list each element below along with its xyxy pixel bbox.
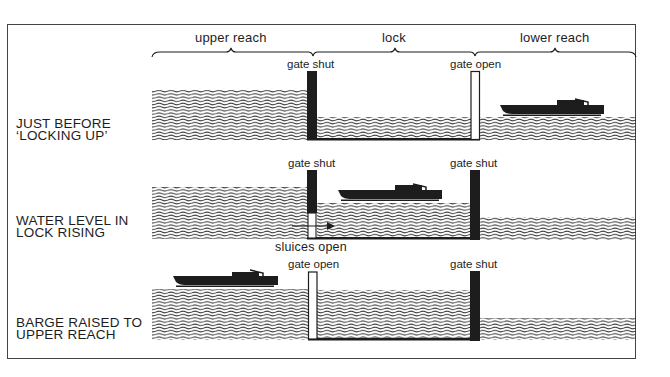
panel-2-graphic xyxy=(152,170,636,240)
panel-3-right-gate-label: gate shut xyxy=(450,258,497,270)
lock-floor xyxy=(308,338,480,341)
lock-water xyxy=(317,203,471,239)
left-gate-open xyxy=(309,272,318,339)
lower-reach-water xyxy=(480,217,636,240)
lock-floor xyxy=(307,138,480,141)
panel-3-left-gate-label: gate open xyxy=(288,258,339,270)
left-gate-shut xyxy=(307,71,317,140)
section-brace xyxy=(152,48,636,57)
panel-1-graphic xyxy=(152,71,636,141)
barge-icon xyxy=(500,99,604,116)
barge-icon xyxy=(338,184,442,201)
lower-reach-water xyxy=(480,117,636,140)
barge-icon xyxy=(173,270,278,287)
panel-3-graphic xyxy=(152,270,636,341)
panel-1-right-gate-label: gate open xyxy=(450,58,501,70)
lower-reach-water xyxy=(480,318,636,340)
right-gate-open xyxy=(471,72,480,140)
left-gate-shut xyxy=(307,170,317,213)
panel-1-left-gate-label: gate shut xyxy=(287,58,334,70)
stage-2-label-line2: LOCK RISING xyxy=(16,226,105,239)
sluices-open-annotation: sluices open xyxy=(275,241,347,254)
stage-1-label-line2: ‘LOCKING UP’ xyxy=(16,129,108,142)
upper-reach-water xyxy=(152,187,308,239)
section-label-upper-reach: upper reach xyxy=(195,31,267,44)
lock-water xyxy=(317,117,471,140)
section-label-lock: lock xyxy=(382,31,406,44)
panel-2-right-gate-label: gate shut xyxy=(450,157,497,169)
right-gate-shut xyxy=(470,170,480,240)
stage-3-label-line2: UPPER REACH xyxy=(16,328,116,341)
upper-reach-water xyxy=(152,289,308,340)
section-label-lower-reach: lower reach xyxy=(520,31,589,44)
upper-reach-water xyxy=(152,90,308,140)
right-gate-shut xyxy=(470,271,480,341)
lock-water xyxy=(317,290,471,340)
panel-2-left-gate-label: gate shut xyxy=(288,157,335,169)
